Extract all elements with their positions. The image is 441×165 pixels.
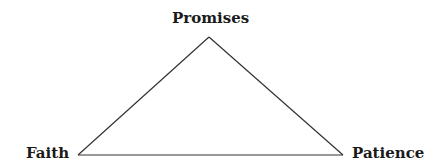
edge-promises-faith — [78, 37, 209, 155]
vertex-label-patience: Patience — [352, 144, 424, 162]
vertex-label-promises: Promises — [172, 9, 249, 27]
vertex-label-faith: Faith — [26, 144, 69, 162]
edge-promises-patience — [209, 37, 343, 155]
